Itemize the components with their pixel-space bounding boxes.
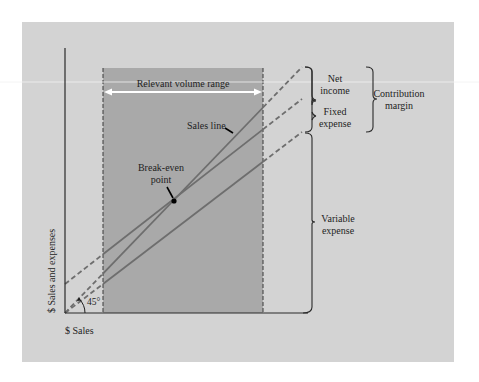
fixed-expense-label-1: Fixed xyxy=(324,106,347,117)
break-even-point-marker xyxy=(171,198,176,203)
net-income-label-2: income xyxy=(320,85,350,96)
break-even-diagram: Relevant volume range 45° $ Sales $ Sale… xyxy=(0,0,479,382)
angle-label: 45° xyxy=(87,297,101,307)
contribution-margin-label-1: Contribution xyxy=(373,88,424,99)
relevant-range-label: Relevant volume range xyxy=(137,78,230,89)
fixed-expense-label-2: expense xyxy=(319,118,352,129)
break-even-label: Break-even xyxy=(138,162,184,173)
variable-expense-label-1: Variable xyxy=(321,213,355,224)
net-income-label-1: Net xyxy=(328,73,343,84)
variable-expense-label-2: expense xyxy=(322,225,355,236)
sales-line-label: Sales line xyxy=(187,120,226,131)
y-axis-label: $ Sales and expenses xyxy=(46,229,57,313)
contribution-margin-label-2: margin xyxy=(385,100,413,111)
x-axis-label: $ Sales xyxy=(65,325,94,336)
break-even-label-2: point xyxy=(151,174,172,185)
